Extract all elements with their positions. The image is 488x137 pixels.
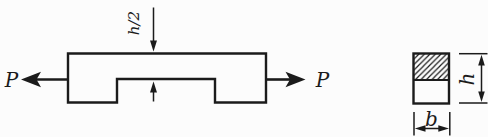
hatched-upper-half xyxy=(414,54,450,81)
force-label-left: P xyxy=(4,68,19,92)
notch-depth-label: h/2 xyxy=(125,11,143,35)
h-arrowhead-down-icon xyxy=(478,92,485,103)
b-arrowhead-left-icon xyxy=(415,125,426,132)
notch-depth-arrow-bottom-head-icon xyxy=(150,82,157,93)
notch-depth-arrow-top-head-icon xyxy=(150,41,157,52)
section-width-label: b xyxy=(425,107,438,131)
force-label-right: P xyxy=(315,68,330,92)
notched-bar-figure: P P h/2 xyxy=(4,8,330,103)
b-arrowhead-right-icon xyxy=(438,125,449,132)
notched-bar-outline xyxy=(68,54,266,103)
h-arrowhead-up-icon xyxy=(478,55,485,66)
figure-canvas: P P h/2 xyxy=(0,0,488,137)
notched-bar-diagram: P P h/2 xyxy=(0,0,488,137)
cross-section-figure: h b xyxy=(414,54,488,136)
section-height-label: h xyxy=(455,73,479,86)
